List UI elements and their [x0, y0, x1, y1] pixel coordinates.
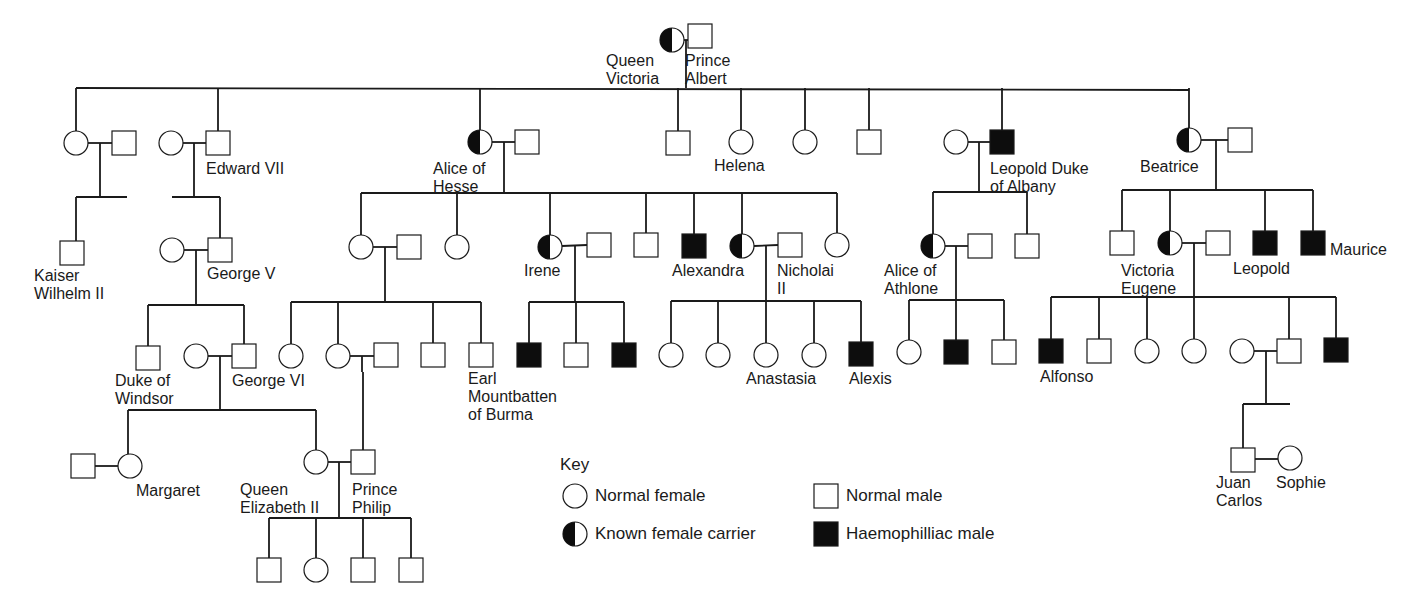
person-george5: [208, 238, 232, 262]
male-square: [1206, 231, 1230, 255]
relationship-line: [76, 88, 1189, 90]
label-kaiser: Kaiser Wilhelm II: [34, 267, 104, 303]
label-alfonso: Alfonso: [1040, 368, 1093, 386]
female-circle: [118, 454, 142, 478]
male-square: [587, 233, 611, 257]
affected-male-square: [1253, 231, 1277, 255]
female-circle: [793, 130, 817, 154]
person-ah-s2: [682, 234, 706, 258]
person-alfonso: [1039, 339, 1063, 363]
female-circle: [304, 450, 328, 474]
person-e2-c4: [399, 558, 423, 582]
person-ahd1-c3: [421, 343, 445, 367]
person-e2-c2: [304, 558, 328, 582]
female-circle: [160, 238, 184, 262]
male-square: [1015, 234, 1039, 258]
female-circle: [184, 344, 208, 368]
label-george6: George VI: [232, 372, 305, 390]
person-e2-c1: [257, 558, 281, 582]
person-alexis: [849, 342, 873, 366]
person-irene-sp: [587, 233, 611, 257]
male-square: [666, 131, 690, 155]
person-b-s1: [1110, 231, 1134, 255]
person-juan-carlos: [1231, 448, 1255, 472]
female-circle: [754, 343, 778, 367]
person-ni-c4: [802, 343, 826, 367]
person-george5-sp: [160, 238, 184, 262]
male-square: [1231, 448, 1255, 472]
person-george6: [232, 344, 256, 368]
label-alexandra: Alexandra: [672, 262, 744, 280]
key-title: Key: [560, 455, 589, 475]
person-g1-d1: [64, 131, 88, 155]
label-alice-athlone: Alice of Athlone: [884, 262, 938, 298]
male-square: [397, 235, 421, 259]
person-irene-c3: [612, 343, 636, 367]
person-mountbatten: [469, 343, 493, 367]
person-ni-c1: [659, 343, 683, 367]
pedigree-chart: [0, 0, 1425, 606]
person-beatrice-sp: [1228, 128, 1252, 152]
person-ah-s1: [634, 233, 658, 257]
female-circle: [64, 131, 88, 155]
person-alice-hesse-sp: [515, 130, 539, 154]
label-george5: George V: [207, 265, 275, 283]
person-edward7: [206, 131, 230, 155]
label-nicholai: Nicholai II: [777, 262, 834, 298]
carrier-half-fill: [1158, 231, 1170, 255]
label-beatrice: Beatrice: [1140, 158, 1199, 176]
key-label-normal-male: Normal male: [846, 486, 942, 506]
female-circle: [897, 340, 921, 364]
person-margaret-sp: [71, 454, 95, 478]
female-circle: [279, 344, 303, 368]
male-square: [374, 343, 398, 367]
carrier-half-fill: [921, 234, 933, 258]
female-circle: [729, 130, 753, 154]
affected-male-square: [682, 234, 706, 258]
male-square: [1277, 339, 1301, 363]
male-square: [257, 558, 281, 582]
affected-male-square: [1324, 338, 1348, 362]
male-square: [1087, 339, 1111, 363]
person-la-s1: [1015, 234, 1039, 258]
person-aa-c3: [992, 340, 1016, 364]
label-sophie: Sophie: [1276, 474, 1326, 492]
affected-male-square: [849, 342, 873, 366]
male-square: [992, 340, 1016, 364]
carrier-half-fill: [538, 235, 550, 259]
label-leopold: Leopold: [1233, 260, 1290, 278]
person-alexandra: [730, 234, 754, 258]
label-anastasia: Anastasia: [746, 370, 816, 388]
male-square: [112, 131, 136, 155]
label-elizabeth2: Queen Elizabeth II: [240, 481, 319, 517]
person-alice-athlone-sp: [968, 234, 992, 258]
female-circle: [159, 131, 183, 155]
male-square: [1110, 231, 1134, 255]
label-leopold-albany: Leopold Duke of Albany: [990, 160, 1089, 196]
male-square: [469, 343, 493, 367]
person-irene-c2: [564, 343, 588, 367]
person-ve-c2: [1087, 339, 1111, 363]
person-ve-c3: [1135, 339, 1159, 363]
person-ahd1-c1: [279, 344, 303, 368]
male-square: [515, 130, 539, 154]
label-margaret: Margaret: [136, 482, 200, 500]
female-circle: [659, 343, 683, 367]
person-victoria-eugene: [1158, 231, 1182, 255]
male-square: [564, 343, 588, 367]
person-ah-d5: [825, 233, 849, 257]
person-ahd1-c2: [326, 344, 350, 368]
label-albert: Prince Albert: [685, 52, 730, 88]
affected-male-square: [1039, 339, 1063, 363]
person-maurice: [1301, 231, 1325, 255]
person-leopold-albany: [990, 130, 1014, 154]
affected-male-square: [612, 343, 636, 367]
female-circle: [1278, 446, 1302, 470]
person-e2-c3: [351, 558, 375, 582]
male-square: [634, 233, 658, 257]
female-circle: [825, 233, 849, 257]
person-victoria: [660, 28, 684, 52]
person-ni-c2: [706, 343, 730, 367]
female-circle: [1135, 339, 1159, 363]
carrier-half-fill: [1177, 128, 1189, 152]
